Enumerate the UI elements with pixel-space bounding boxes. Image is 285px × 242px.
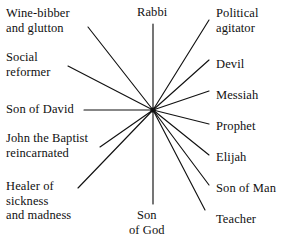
diagram-label-wine-bibber-and-glutton[interactable]: Wine-bibber and glutton	[6, 6, 70, 35]
diagram-label-social-reformer[interactable]: Social reformer	[6, 50, 51, 79]
spoke-line-son-of-man	[153, 110, 209, 185]
diagram-label-son-of-david[interactable]: Son of David	[6, 102, 74, 117]
spoke-line-teacher	[153, 110, 205, 210]
spoke-line-john-the-baptist-reincarnated	[100, 110, 153, 147]
diagram-label-healer-of-sickness-and-madness[interactable]: Healer of sickness and madness	[6, 179, 71, 223]
spoke-line-healer-of-sickness-and-madness	[78, 110, 153, 188]
diagram-label-political-agitator[interactable]: Political agitator	[216, 6, 259, 35]
hub-center-point	[150, 107, 155, 112]
diagram-label-messiah[interactable]: Messiah	[216, 88, 258, 103]
spoke-line-wine-bibber-and-glutton	[88, 27, 153, 110]
diagram-label-son-of-man[interactable]: Son of Man	[216, 181, 276, 196]
diagram-label-john-the-baptist-reincarnated[interactable]: John the Baptist reincarnated	[6, 131, 88, 160]
spoke-line-messiah	[153, 91, 209, 110]
diagram-label-prophet[interactable]: Prophet	[216, 119, 256, 134]
spoke-line-social-reformer	[68, 66, 153, 110]
diagram-canvas: Wine-bibber and gluttonSocial reformerSo…	[0, 0, 285, 242]
diagram-label-rabbi[interactable]: Rabbi	[137, 5, 167, 20]
spoke-line-devil	[153, 60, 209, 110]
diagram-label-elijah[interactable]: Elijah	[216, 150, 246, 165]
spoke-line-political-agitator	[153, 20, 209, 110]
diagram-label-teacher[interactable]: Teacher	[216, 212, 256, 227]
diagram-label-devil[interactable]: Devil	[216, 57, 244, 72]
diagram-label-son-of-god[interactable]: Son of God	[129, 208, 165, 237]
